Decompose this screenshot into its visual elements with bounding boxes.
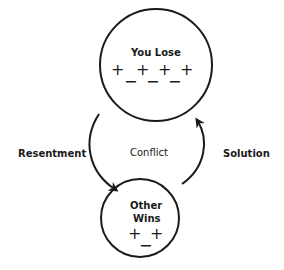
- plus-symbol: +: [111, 62, 124, 78]
- minus-symbol: −: [146, 74, 159, 90]
- minus-symbol: −: [139, 238, 152, 254]
- resentment-label: Resentment: [18, 148, 86, 159]
- minus-symbol: −: [124, 74, 137, 90]
- plus-symbol: +: [180, 62, 193, 78]
- minus-symbol: −: [168, 74, 181, 90]
- cycle-diagram: [0, 0, 284, 270]
- top-node-label: You Lose: [131, 47, 181, 58]
- bottom-node-label-line2: Wins: [133, 213, 161, 224]
- solution-arrow: [182, 120, 204, 184]
- conflict-label: Conflict: [130, 147, 168, 158]
- solution-label: Solution: [223, 148, 270, 159]
- resentment-arrow: [90, 114, 116, 190]
- bottom-node-label-line1: Other: [130, 200, 162, 211]
